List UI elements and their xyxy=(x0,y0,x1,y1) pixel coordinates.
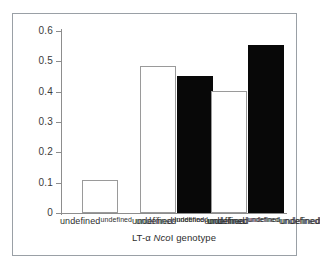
bar-open-undefined xyxy=(82,180,118,213)
x-axis-title: LT-α NcoI genotype xyxy=(61,232,287,243)
bar-open-undefined xyxy=(140,66,176,213)
x-axis-line xyxy=(61,213,287,214)
y-tick-label: 0.3 xyxy=(22,117,53,127)
y-tick-label-wrap: 0 xyxy=(22,208,53,218)
x-category-label: undefinedundefinedundefinedundefinedunde… xyxy=(136,216,216,226)
x-axis-title-suffix: I genotype xyxy=(171,232,216,243)
x-axis-title-italic: Nco xyxy=(154,232,171,243)
x-category-label: undefinedundefinedundefinedundefinedunde… xyxy=(60,216,140,226)
bar-filled-undefined xyxy=(248,45,284,213)
bar-filled-undefined xyxy=(177,76,213,213)
bar-open-undefined xyxy=(211,91,247,213)
y-tick-label-wrap: 0.1 xyxy=(22,178,53,188)
y-tick-label: 0.6 xyxy=(22,26,53,36)
x-axis-title-prefix: LT-α xyxy=(132,232,154,243)
bars-layer xyxy=(61,31,287,213)
y-tick-label: 0.2 xyxy=(22,147,53,157)
y-tick-label-wrap: 0.6 xyxy=(22,26,53,36)
y-tick-mark xyxy=(56,213,61,214)
y-tick-label-wrap: 0.5 xyxy=(22,56,53,66)
y-tick-label-wrap: 0.3 xyxy=(22,117,53,127)
y-tick-label: 0.1 xyxy=(22,178,53,188)
figure-container: 00.10.20.30.40.50.6 undefinedundefinedun… xyxy=(0,0,311,270)
y-tick-label-wrap: 0.4 xyxy=(22,87,53,97)
y-tick-label: 0.5 xyxy=(22,56,53,66)
y-tick-label: 0 xyxy=(22,208,53,218)
x-category-label: undefinedundefinedundefinedundefinedunde… xyxy=(207,216,287,226)
y-tick-label: 0.4 xyxy=(22,87,53,97)
y-tick-label-wrap: 0.2 xyxy=(22,147,53,157)
